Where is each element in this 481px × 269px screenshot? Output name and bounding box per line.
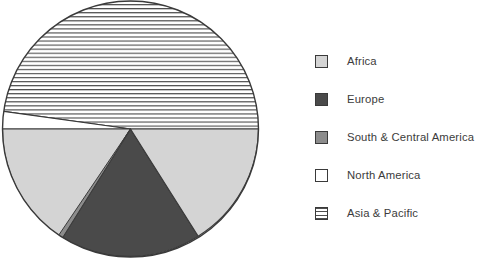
legend-label-asia-pacific: Asia & Pacific bbox=[347, 207, 418, 220]
legend-item-asia-pacific[interactable]: Asia & Pacific bbox=[315, 204, 481, 222]
legend-item-europe[interactable]: Europe bbox=[315, 90, 481, 108]
asia-pacific-swatch bbox=[315, 207, 328, 220]
pie-chart-figure: Africa Europe South & Central America No… bbox=[0, 0, 481, 269]
pie-plot-area bbox=[0, 0, 290, 269]
chart-legend: Africa Europe South & Central America No… bbox=[315, 52, 481, 222]
legend-label-europe: Europe bbox=[347, 93, 384, 106]
pie-slice-asia-pacific bbox=[2, 0, 259, 129]
legend-item-africa[interactable]: Africa bbox=[315, 52, 481, 70]
europe-swatch bbox=[315, 93, 328, 106]
pie-svg bbox=[0, 0, 290, 269]
africa-swatch bbox=[315, 55, 328, 68]
legend-item-south-central-america[interactable]: South & Central America bbox=[315, 128, 481, 146]
legend-item-north-america[interactable]: North America bbox=[315, 166, 481, 184]
south-central-america-swatch bbox=[315, 131, 328, 144]
legend-label-africa: Africa bbox=[347, 55, 377, 68]
legend-label-south-central-america: South & Central America bbox=[347, 131, 474, 144]
north-america-swatch bbox=[315, 169, 328, 182]
legend-label-north-america: North America bbox=[347, 169, 421, 182]
